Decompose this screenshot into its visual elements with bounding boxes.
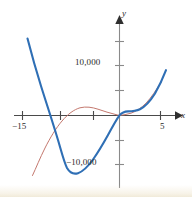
plot-canvas [0,0,192,197]
y-axis-label: y [122,8,126,18]
y-tick-label-positive: 10,000 [75,57,100,67]
graph-figure: y x −15 5 10,000 −10,000 [0,0,192,197]
x-axis-label: x [181,110,185,120]
y-tick-label-negative: −10,000 [66,157,97,167]
x-tick-label-5: 5 [160,121,165,131]
x-tick-label-neg15: −15 [12,121,26,131]
